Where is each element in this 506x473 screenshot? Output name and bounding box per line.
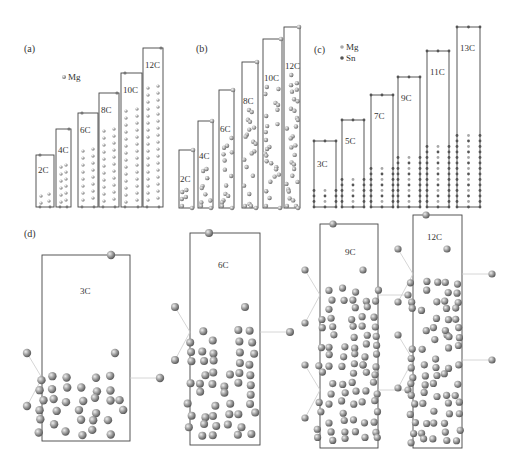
atom <box>91 189 94 192</box>
unit-cell-a-1 <box>56 129 71 207</box>
atom <box>467 195 470 198</box>
atom <box>112 148 115 151</box>
atom <box>115 396 123 404</box>
atom <box>198 348 206 356</box>
legend-mg-label: Mg <box>346 42 359 52</box>
atom <box>350 323 357 330</box>
atom <box>479 145 482 148</box>
atom <box>89 416 97 424</box>
atom <box>200 357 208 365</box>
atom <box>112 176 115 179</box>
atom <box>426 167 429 170</box>
atom <box>328 296 335 303</box>
atom <box>437 173 440 176</box>
atom <box>467 134 470 137</box>
atom <box>408 355 415 362</box>
atom <box>445 333 452 340</box>
atom <box>156 105 159 108</box>
atom <box>289 145 293 149</box>
atom <box>467 151 470 154</box>
atom <box>81 177 84 180</box>
atom <box>243 134 247 138</box>
atom <box>301 414 308 421</box>
atom <box>324 206 327 209</box>
atom <box>352 184 355 187</box>
atom <box>269 161 273 165</box>
atom <box>341 189 344 192</box>
atom <box>112 155 115 158</box>
atom <box>158 206 161 209</box>
cell-label: 13C <box>460 43 475 53</box>
atom <box>59 206 62 209</box>
atom <box>91 168 94 171</box>
atom <box>456 162 459 165</box>
atom <box>292 109 296 113</box>
atom <box>199 327 207 335</box>
atom <box>146 206 149 209</box>
atom <box>81 206 84 209</box>
cell-label: 12C <box>427 232 442 242</box>
atom <box>220 389 228 397</box>
atom <box>294 124 298 128</box>
atom <box>328 428 335 435</box>
cell-label: 3C <box>317 159 328 169</box>
atom <box>370 178 373 181</box>
atom <box>392 189 395 192</box>
atom <box>247 127 251 131</box>
atom <box>437 162 440 165</box>
atom <box>107 251 115 259</box>
atom <box>187 357 195 365</box>
atom <box>349 379 356 386</box>
atom <box>397 189 400 192</box>
atom <box>408 178 411 181</box>
atom <box>397 178 400 181</box>
atom <box>81 170 84 173</box>
atom <box>441 420 448 427</box>
atom <box>352 289 359 296</box>
atom <box>146 191 149 194</box>
atom <box>350 370 357 377</box>
atom <box>392 167 395 170</box>
atom <box>91 182 94 185</box>
atom <box>454 281 461 288</box>
atom <box>156 175 159 178</box>
panel-label-a: (a) <box>24 43 35 55</box>
atom <box>222 158 226 162</box>
atom <box>392 200 395 203</box>
atom <box>467 184 470 187</box>
atom <box>394 245 401 252</box>
atom <box>234 379 242 387</box>
atom <box>370 379 377 386</box>
atom <box>452 392 459 399</box>
atom <box>456 189 459 192</box>
atom <box>341 195 344 198</box>
atom <box>448 167 451 170</box>
unit-cell-a-5 <box>143 48 163 207</box>
legend-a: Mg <box>62 72 81 82</box>
atom <box>64 177 67 180</box>
atom <box>351 334 358 341</box>
atom <box>102 171 105 174</box>
atom <box>250 110 254 114</box>
atom <box>410 430 417 437</box>
atom <box>124 144 127 147</box>
atom <box>335 200 338 203</box>
atom <box>199 204 203 208</box>
atom <box>381 94 384 97</box>
atom <box>209 337 217 345</box>
atom <box>102 192 105 195</box>
atom <box>112 141 115 144</box>
atom <box>467 173 470 176</box>
atom <box>251 409 259 417</box>
atom <box>381 200 384 203</box>
atom <box>291 198 295 202</box>
atom <box>252 125 256 129</box>
atom <box>223 167 227 171</box>
atom <box>448 184 451 187</box>
atom <box>370 173 373 176</box>
legend-sn-label: Sn <box>346 53 356 63</box>
atom <box>426 145 429 148</box>
atom <box>35 386 43 394</box>
atom <box>59 165 62 168</box>
atom <box>338 397 345 404</box>
